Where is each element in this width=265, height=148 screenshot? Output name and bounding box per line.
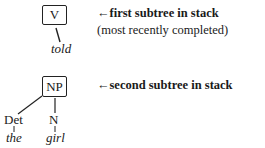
n-node-label: N: [49, 112, 58, 128]
left-arrow-icon: ←: [97, 6, 110, 20]
word-the: the: [6, 130, 22, 146]
first-subtree-annotation: ←first subtree in stack: [97, 6, 219, 21]
second-subtree-annotation: ←second subtree in stack: [97, 78, 233, 93]
v-node-label: V: [50, 7, 59, 23]
first-subtree-subnote: (most recently completed): [97, 23, 228, 38]
v-node-box: V: [42, 5, 67, 25]
np-node-box: NP: [42, 76, 67, 97]
word-told: told: [51, 41, 71, 57]
det-node-label: Det: [4, 112, 23, 128]
np-node-label: NP: [46, 79, 63, 95]
word-girl: girl: [46, 130, 65, 146]
left-arrow-icon: ←: [97, 78, 110, 92]
